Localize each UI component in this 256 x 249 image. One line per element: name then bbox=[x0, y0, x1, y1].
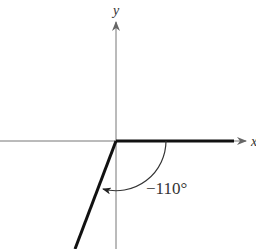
angle-label: −110° bbox=[146, 179, 187, 198]
terminal-side-ray bbox=[75, 141, 116, 249]
angle-diagram: y x −110° bbox=[0, 0, 256, 249]
y-axis-label: y bbox=[111, 3, 120, 18]
x-axis-label: x bbox=[250, 134, 256, 149]
